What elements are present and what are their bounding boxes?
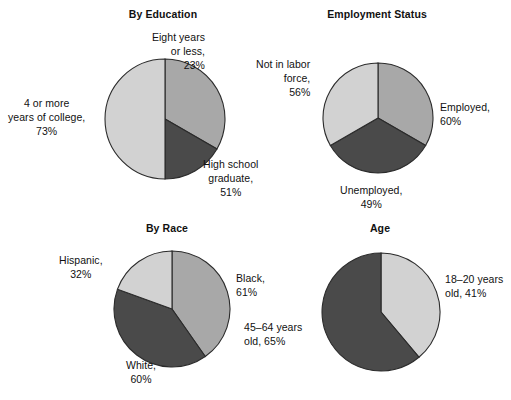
- pie-label-45-64-years-old: 45–64 years old, 65%: [244, 320, 302, 348]
- pie-label-white: White, 60%: [126, 358, 156, 386]
- pie-label-unemployed: Unemployed, 49%: [340, 183, 402, 211]
- pie-label-hispanic: Hispanic, 32%: [59, 253, 103, 281]
- pie-label-18-20-years-old: 18–20 years old, 41%: [445, 272, 503, 300]
- pie-label-black: Black, 61%: [236, 271, 265, 299]
- pie-chart-age: [321, 252, 441, 372]
- chart-title-by-race: By Race: [146, 222, 188, 234]
- pie-label-four-or-more-years-of-college: 4 or more years of college, 73%: [8, 96, 85, 138]
- pie-chart-by-race: [113, 250, 231, 368]
- pie-svg-age: [321, 252, 441, 372]
- pie-svg-by-race: [113, 250, 231, 368]
- pie-label-employed: Employed, 60%: [440, 100, 490, 128]
- pie-chart-employment-status: [322, 62, 434, 174]
- pie-label-high-school-graduate: High school graduate, 51%: [203, 157, 258, 199]
- pie-label-eight-years-or-less-text: Eight years or less, 23%: [152, 30, 205, 72]
- pie-slice-four-or-more-years-of-college: [105, 59, 165, 179]
- pie-svg-employment-status: [322, 62, 434, 174]
- chart-title-by-education: By Education: [129, 8, 197, 20]
- pie-label-not-in-labor-force: Not in labor force, 56%: [256, 57, 310, 99]
- chart-title-age: Age: [370, 222, 390, 234]
- chart-title-employment-status: Employment Status: [327, 8, 427, 20]
